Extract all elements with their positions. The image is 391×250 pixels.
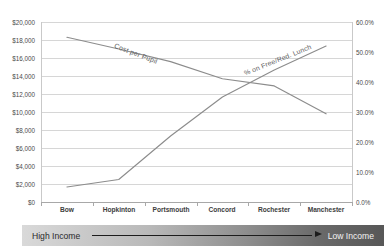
gridline [41,148,352,149]
gridline [41,58,352,59]
y-axis-left-tick: $10,000 [0,109,35,116]
gridline [41,94,352,95]
x-axis-label-concord: Concord [208,205,235,214]
chart-container: $20,000 $18,000 $16,000 $14,000 $12,000 … [0,0,391,250]
x-axis-tick-mark [197,202,198,206]
gridline [41,130,352,131]
y-axis-right-tick: 60.0% [356,19,391,26]
y-axis-left-tick: $20,000 [0,19,35,26]
gridline [41,40,352,41]
y-axis-left-tick: $18,000 [0,37,35,44]
y-axis-right-tick: 10.0% [356,169,391,176]
y-axis-left-tick: $2,000 [0,181,35,188]
y-axis-left-tick: $16,000 [0,55,35,62]
y-axis-right-tick: 40.0% [356,79,391,86]
x-axis-tick-mark [41,202,42,206]
x-axis-tick-mark [300,202,301,206]
x-axis-tick-mark [248,202,249,206]
x-axis-label-manchester: Manchester [308,205,345,214]
y-axis-left-tick: $14,000 [0,73,35,80]
x-axis-tick-mark [352,202,353,206]
right-arrow-icon [315,231,322,237]
arrow-line-icon [92,235,311,236]
y-axis-right-tick: 0.0% [356,199,391,206]
income-gradient-bar: High Income Low Income [22,225,384,246]
x-axis-label-portsmouth: Portsmouth [153,205,190,214]
y-axis-left-tick: $8,000 [0,127,35,134]
gridline [41,22,352,23]
x-axis-label-rochester: Rochester [258,205,290,214]
y-axis-right-line [352,22,353,202]
y-axis-right-tick: 20.0% [356,139,391,146]
income-direction-arrow [86,225,321,246]
low-income-label: Low Income [328,231,374,241]
high-income-label: High Income [32,231,80,241]
gridline [41,76,352,77]
y-axis-right-tick: 50.0% [356,49,391,56]
gridline [41,166,352,167]
y-axis-left-tick: $6,000 [0,145,35,152]
y-axis-left-tick: $4,000 [0,163,35,170]
x-axis-tick-mark [145,202,146,206]
gridline [41,112,352,113]
y-axis-right-tick: 30.0% [356,109,391,116]
x-axis-tick-mark [93,202,94,206]
gridline [41,184,352,185]
y-axis-left-tick: $0 [0,199,35,206]
y-axis-left-tick: $12,000 [0,91,35,98]
y-axis-left-line [41,22,42,202]
x-axis-label-bow: Bow [60,205,74,214]
x-axis-label-hopkinton: Hopkinton [103,205,136,214]
